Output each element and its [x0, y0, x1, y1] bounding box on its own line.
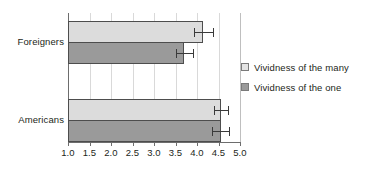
legend-label-one: Vividness of the one	[254, 82, 341, 93]
legend-swatch-icon-many	[241, 63, 249, 71]
error-bar-cap	[213, 28, 214, 37]
legend-label-many: Vividness of the many	[254, 62, 349, 73]
axis-tick	[219, 142, 220, 146]
error-bar-cap	[214, 106, 215, 115]
axis-tick	[240, 142, 241, 146]
axis-tick	[133, 142, 134, 146]
error-bar-cap	[193, 49, 194, 58]
category-label-foreigners: Foreigners	[2, 37, 64, 47]
bar	[68, 42, 184, 64]
error-bar	[176, 53, 193, 54]
error-bar	[214, 110, 228, 111]
bar-chart: Foreigners Americans 1.01.52.02.53.03.54…	[0, 0, 374, 172]
axis-tick	[68, 142, 69, 146]
error-bar-cap	[212, 127, 213, 136]
legend-swatch-icon-one	[241, 83, 249, 91]
axis-tick	[176, 142, 177, 146]
axis-tick	[197, 142, 198, 146]
error-bar	[194, 32, 213, 33]
bar	[68, 99, 221, 121]
legend: Vividness of the many Vividness of the o…	[241, 59, 373, 99]
legend-item-many: Vividness of the many	[241, 59, 373, 75]
error-bar	[212, 131, 229, 132]
axis-tick	[154, 142, 155, 146]
axis-tick	[90, 142, 91, 146]
error-bar-cap	[228, 106, 229, 115]
error-bar-cap	[229, 127, 230, 136]
plot-area	[68, 13, 240, 142]
axis-tick	[111, 142, 112, 146]
category-label-americans: Americans	[2, 115, 64, 125]
error-bar-cap	[194, 28, 195, 37]
axis-tick-label: 5.0	[227, 147, 253, 158]
bar	[68, 120, 221, 142]
bar	[68, 21, 203, 43]
error-bar-cap	[176, 49, 177, 58]
legend-item-one: Vividness of the one	[241, 79, 373, 95]
